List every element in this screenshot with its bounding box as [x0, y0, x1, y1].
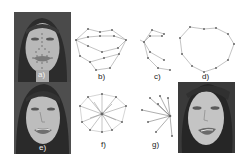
panel-c-graph — [138, 24, 174, 74]
panel-d-label: d) — [202, 72, 209, 81]
outer-lip-contour-d — [176, 22, 238, 74]
panel-a-label: a) — [38, 70, 45, 79]
panel-f-graph — [76, 92, 128, 142]
panel-c-label: c) — [154, 72, 161, 81]
panel-b-graph — [74, 24, 128, 74]
fan-graph-g — [138, 92, 176, 142]
panel-g-label: g) — [152, 140, 159, 149]
panel-a-photo: a) — [14, 12, 71, 82]
face-photo-h-image — [178, 82, 235, 153]
panel-h-photo — [178, 82, 235, 153]
mouth-contour-graph-b — [74, 24, 128, 74]
panel-d-graph — [176, 22, 238, 74]
partial-mouth-graph-c — [138, 24, 174, 74]
panel-g-graph — [138, 92, 176, 142]
panel-e-photo: e) — [14, 82, 71, 154]
panel-e-label: e) — [39, 143, 46, 152]
panel-f-label: f) — [101, 140, 106, 149]
panel-b-label: b) — [98, 72, 105, 81]
star-graph-f — [76, 92, 128, 142]
